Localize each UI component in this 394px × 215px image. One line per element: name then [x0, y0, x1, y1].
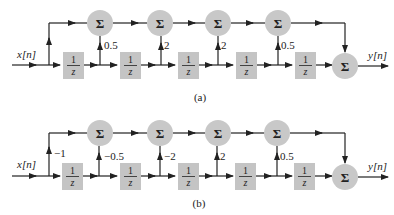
summer-3: Σ — [205, 10, 231, 36]
tap-gain-label: 2 — [221, 39, 227, 51]
delay-denominator: z — [243, 177, 248, 188]
delay-4: 1 z — [236, 52, 257, 79]
delay-numerator: 1 — [186, 165, 191, 176]
summer-3: Σ — [205, 120, 231, 146]
output-label: y[n] — [367, 49, 387, 61]
delay-2: 1 z — [120, 52, 141, 79]
delay-numerator: 1 — [70, 165, 75, 176]
sigma-symbol: Σ — [214, 16, 223, 31]
sigma-symbol: Σ — [96, 126, 105, 141]
output-label: y[n] — [367, 160, 387, 172]
direct-gain-label: −1 — [54, 147, 66, 159]
delay-denominator: z — [71, 66, 76, 77]
delay-denominator: z — [128, 177, 133, 188]
sigma-symbol: Σ — [156, 126, 165, 141]
delay-numerator: 1 — [303, 54, 308, 65]
summer-2: Σ — [147, 10, 173, 36]
tap-gain-label: −0.5 — [104, 150, 124, 162]
summer-2: Σ — [147, 120, 173, 146]
delay-denominator: z — [244, 66, 249, 77]
delay-denominator: z — [186, 177, 191, 188]
delay-3: 1 z — [178, 52, 199, 79]
delay-denominator: z — [302, 177, 307, 188]
sigma-symbol: Σ — [341, 59, 350, 74]
delay-denominator: z — [303, 66, 308, 77]
tap-gain-label: 0.5 — [104, 39, 118, 51]
output-summer: Σ — [332, 53, 358, 79]
input-label: x[n] — [16, 158, 36, 170]
tap-gain-label: 0.5 — [281, 39, 295, 51]
tap-gain-label: 2 — [164, 39, 170, 51]
sigma-symbol: Σ — [341, 170, 350, 185]
summer-1: Σ — [87, 10, 113, 36]
delay-5: 1 z — [294, 163, 315, 190]
delay-1: 1 z — [63, 52, 84, 79]
block-diagrams: Σ Σ Σ Σ 1 z — [0, 0, 394, 215]
sigma-symbol: Σ — [274, 16, 283, 31]
sigma-symbol: Σ — [156, 16, 165, 31]
tap-gain-label: 2 — [220, 150, 226, 162]
diagram-a: Σ Σ Σ Σ 1 z — [12, 10, 388, 104]
summer-4: Σ — [264, 120, 290, 146]
delay-numerator: 1 — [243, 165, 248, 176]
sigma-symbol: Σ — [214, 126, 223, 141]
delay-4: 1 z — [235, 163, 256, 190]
delay-5: 1 z — [295, 52, 316, 79]
delay-2: 1 z — [120, 163, 141, 190]
summer-4: Σ — [265, 10, 291, 36]
caption-a: (a) — [194, 91, 207, 104]
delay-denominator: z — [186, 66, 191, 77]
delay-numerator: 1 — [71, 54, 76, 65]
delay-1: 1 z — [62, 163, 83, 190]
sigma-symbol: Σ — [273, 126, 282, 141]
diagram-b: −1 Σ Σ Σ Σ 1 z — [12, 120, 388, 210]
sigma-symbol: Σ — [96, 16, 105, 31]
delay-numerator: 1 — [186, 54, 191, 65]
delay-numerator: 1 — [244, 54, 249, 65]
delay-denominator: z — [70, 177, 75, 188]
caption-b: (b) — [193, 197, 206, 210]
delay-3: 1 z — [178, 163, 199, 190]
summer-1: Σ — [87, 120, 113, 146]
delay-denominator: z — [128, 66, 133, 77]
delay-numerator: 1 — [128, 165, 133, 176]
output-summer: Σ — [332, 164, 358, 190]
input-label: x[n] — [16, 48, 36, 60]
delay-numerator: 1 — [302, 165, 307, 176]
delay-numerator: 1 — [128, 54, 133, 65]
tap-gain-label: −2 — [164, 150, 176, 162]
tap-gain-label: 0.5 — [280, 150, 294, 162]
